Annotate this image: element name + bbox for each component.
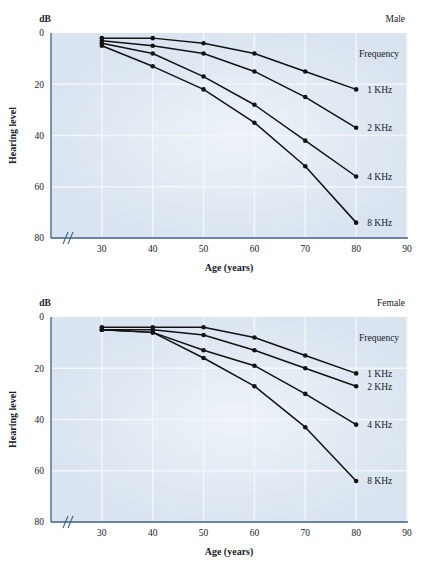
y-axis-unit-label: dB: [39, 298, 51, 308]
x-tick-label: 60: [250, 244, 260, 254]
y-tick-label: 60: [35, 466, 45, 476]
x-axis-title: Age (years): [205, 262, 254, 274]
x-tick-label: 70: [301, 528, 311, 538]
data-point-marker: [303, 392, 308, 397]
y-tick-label: 60: [35, 182, 45, 192]
data-point-marker: [354, 174, 359, 179]
data-point-marker: [252, 384, 257, 389]
legend-label-2-khz: 2 KHz: [367, 382, 392, 392]
y-axis-title: Hearing level: [7, 391, 18, 448]
data-point-marker: [354, 126, 359, 131]
data-point-marker: [201, 333, 206, 338]
data-point-marker: [354, 87, 359, 92]
data-point-marker: [354, 220, 359, 225]
y-tick-label: 80: [35, 517, 45, 527]
y-axis-title: Hearing level: [7, 107, 18, 164]
legend-label-4-khz: 4 KHz: [367, 420, 392, 430]
chart-svg-male: 02040608030405060708090dBHearing levelAg…: [0, 0, 432, 284]
data-point-marker: [201, 348, 206, 353]
legend-label-4-khz: 4 KHz: [367, 172, 392, 182]
x-tick-label: 60: [250, 528, 260, 538]
data-point-marker: [252, 102, 257, 107]
chart-panel-male: 02040608030405060708090dBHearing levelAg…: [0, 0, 432, 284]
chart-panel-female: 02040608030405060708090dBHearing levelAg…: [0, 284, 432, 568]
x-tick-label: 80: [351, 244, 361, 254]
data-point-marker: [354, 422, 359, 427]
data-point-marker: [303, 425, 308, 430]
legend-label-8-khz: 8 KHz: [367, 218, 392, 228]
data-point-marker: [303, 138, 308, 143]
data-point-marker: [354, 479, 359, 484]
panel-title: Female: [377, 298, 405, 308]
x-tick-label: 40: [148, 528, 158, 538]
data-point-marker: [201, 87, 206, 92]
x-tick-label: 90: [402, 244, 412, 254]
data-point-marker: [252, 69, 257, 74]
data-point-marker: [303, 164, 308, 169]
y-axis-unit-label: dB: [39, 14, 51, 24]
data-point-marker: [100, 44, 105, 49]
data-point-marker: [252, 348, 257, 353]
data-point-marker: [150, 44, 155, 49]
panel-title: Male: [385, 14, 405, 24]
x-tick-label: 40: [148, 244, 158, 254]
data-point-marker: [201, 51, 206, 56]
x-tick-label: 50: [199, 244, 209, 254]
x-tick-label: 50: [199, 528, 209, 538]
legend-title: Frequency: [359, 49, 399, 59]
data-point-marker: [201, 41, 206, 46]
data-point-marker: [150, 330, 155, 335]
y-tick-label: 40: [35, 415, 45, 425]
data-point-marker: [150, 64, 155, 69]
x-tick-label: 80: [351, 528, 361, 538]
data-point-marker: [252, 120, 257, 125]
data-point-marker: [150, 51, 155, 56]
data-point-marker: [303, 95, 308, 100]
y-tick-label: 80: [35, 233, 45, 243]
y-tick-label: 0: [39, 312, 44, 322]
data-point-marker: [100, 328, 105, 333]
data-point-marker: [252, 51, 257, 56]
y-tick-label: 40: [35, 131, 45, 141]
data-point-marker: [252, 335, 257, 340]
y-tick-label: 20: [35, 364, 45, 374]
data-point-marker: [354, 384, 359, 389]
x-tick-label: 30: [97, 244, 107, 254]
data-point-marker: [150, 36, 155, 41]
x-tick-label: 30: [97, 528, 107, 538]
y-tick-label: 0: [39, 28, 44, 38]
legend-label-1-khz: 1 KHz: [367, 369, 392, 379]
data-point-marker: [303, 353, 308, 358]
data-point-marker: [201, 325, 206, 330]
data-point-marker: [354, 371, 359, 376]
x-tick-label: 70: [301, 244, 311, 254]
x-tick-label: 90: [402, 528, 412, 538]
x-axis-title: Age (years): [205, 546, 254, 558]
data-point-marker: [201, 74, 206, 79]
legend-label-1-khz: 1 KHz: [367, 85, 392, 95]
legend-title: Frequency: [359, 333, 399, 343]
data-point-marker: [201, 356, 206, 361]
data-point-marker: [303, 69, 308, 74]
data-point-marker: [303, 366, 308, 371]
data-point-marker: [252, 363, 257, 368]
chart-svg-female: 02040608030405060708090dBHearing levelAg…: [0, 284, 432, 568]
legend-label-2-khz: 2 KHz: [367, 123, 392, 133]
y-tick-label: 20: [35, 80, 45, 90]
legend-label-8-khz: 8 KHz: [367, 476, 392, 486]
